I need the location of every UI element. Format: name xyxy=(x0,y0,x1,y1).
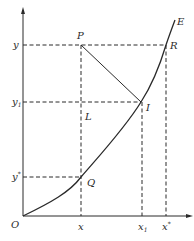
y1-tick-label: y1 xyxy=(11,96,21,108)
axes xyxy=(21,7,193,218)
guide-lines xyxy=(23,45,166,216)
segment-p-i xyxy=(81,45,141,102)
diagram-canvas: O y y1 y* x x1 x* P R I L Q E xyxy=(0,0,194,241)
x1-tick-label: x1 xyxy=(138,221,147,233)
y-tick-label: y xyxy=(12,39,19,50)
point-p-label: P xyxy=(76,30,84,41)
point-e-label: E xyxy=(176,16,185,27)
origin-label: O xyxy=(11,219,19,230)
point-r-label: R xyxy=(169,40,178,51)
xstar-tick-label: x* xyxy=(162,220,171,232)
x-axis-arrow-icon xyxy=(186,214,193,218)
curve-oe xyxy=(23,20,175,216)
y-axis-arrow-icon xyxy=(21,7,25,14)
point-i-label: I xyxy=(145,102,151,113)
point-l-label: L xyxy=(84,111,92,122)
ystar-tick-label: y* xyxy=(11,170,21,182)
x-tick-label: x xyxy=(78,221,84,232)
point-q-label: Q xyxy=(87,177,95,188)
